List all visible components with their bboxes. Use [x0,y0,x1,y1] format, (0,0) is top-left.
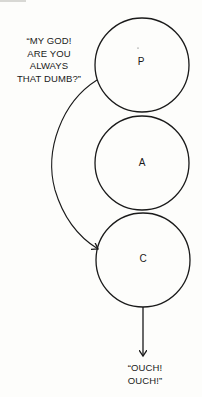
quote-line: “OUCH! [112,362,178,375]
curved-arrow-to-child [52,80,98,249]
quote-line: ALWAYS [4,60,94,73]
parent-label: P [131,56,151,67]
ta-diagram: P A C “MY GOD! ARE YOU ALWAYS THAT DUMB?… [0,0,202,397]
quote-line: OUCH!” [112,375,178,388]
quote-line: ARE YOU [4,48,94,61]
outgoing-quote: “OUCH! OUCH!” [112,362,178,387]
adult-label: A [132,157,152,168]
child-label: C [133,253,153,264]
quote-line: “MY GOD! [4,35,94,48]
incoming-quote: “MY GOD! ARE YOU ALWAYS THAT DUMB?” [4,35,94,85]
quote-line: THAT DUMB?” [4,73,94,86]
print-speck [137,47,138,48]
